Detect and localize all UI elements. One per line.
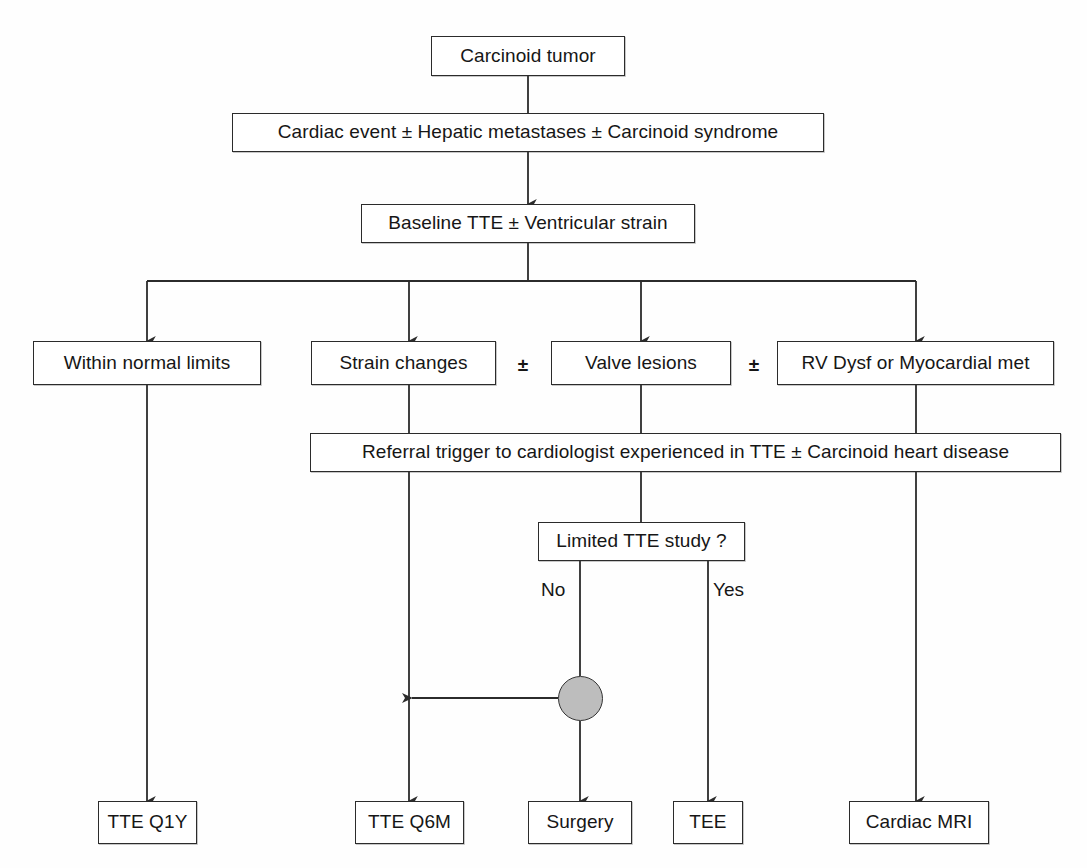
- node-baseline-tte[interactable]: Baseline TTE ± Ventricular strain: [361, 204, 695, 243]
- node-within-normal-limits[interactable]: Within normal limits: [33, 341, 261, 385]
- node-referral-trigger[interactable]: Referral trigger to cardiologist experie…: [310, 433, 1061, 472]
- node-tte-q6m-label: TTE Q6M: [368, 812, 451, 833]
- node-referral-trigger-label: Referral trigger to cardiologist experie…: [362, 442, 1009, 463]
- edge-label-no: No: [541, 580, 565, 599]
- flowchart-canvas: Carcinoid tumor Cardiac event ± Hepatic …: [0, 0, 1087, 868]
- node-cardiac-mri[interactable]: Cardiac MRI: [849, 801, 989, 844]
- node-carcinoid-tumor[interactable]: Carcinoid tumor: [431, 36, 625, 76]
- node-valve-lesions[interactable]: Valve lesions: [551, 341, 731, 385]
- node-strain-changes[interactable]: Strain changes: [311, 341, 496, 385]
- node-within-normal-limits-label: Within normal limits: [64, 353, 231, 374]
- node-tte-q1y[interactable]: TTE Q1Y: [98, 801, 197, 844]
- plus-connector-valve-rv: ±: [743, 355, 765, 374]
- node-surgery[interactable]: Surgery: [528, 801, 632, 844]
- node-tte-q6m[interactable]: TTE Q6M: [355, 801, 464, 844]
- node-limited-tte-study-label: Limited TTE study ?: [556, 531, 727, 552]
- node-tee[interactable]: TEE: [673, 801, 743, 844]
- node-cardiac-event-label: Cardiac event ± Hepatic metastases ± Car…: [278, 122, 779, 143]
- node-tte-q1y-label: TTE Q1Y: [108, 812, 188, 833]
- node-strain-changes-label: Strain changes: [339, 353, 467, 374]
- node-baseline-tte-label: Baseline TTE ± Ventricular strain: [388, 213, 668, 234]
- node-carcinoid-tumor-label: Carcinoid tumor: [460, 46, 596, 67]
- node-valve-lesions-label: Valve lesions: [585, 353, 697, 374]
- node-rv-dysf-myocardial-met[interactable]: RV Dysf or Myocardial met: [777, 341, 1054, 385]
- node-limited-tte-study[interactable]: Limited TTE study ?: [538, 522, 745, 561]
- plus-connector-strain-valve: ±: [512, 355, 534, 374]
- node-rv-dysf-myocardial-met-label: RV Dysf or Myocardial met: [801, 353, 1029, 374]
- node-surgery-label: Surgery: [546, 812, 613, 833]
- junction-node[interactable]: [558, 676, 603, 721]
- node-cardiac-mri-label: Cardiac MRI: [866, 812, 973, 833]
- node-cardiac-event[interactable]: Cardiac event ± Hepatic metastases ± Car…: [232, 113, 824, 152]
- node-tee-label: TEE: [689, 812, 726, 833]
- edge-label-yes: Yes: [713, 580, 744, 599]
